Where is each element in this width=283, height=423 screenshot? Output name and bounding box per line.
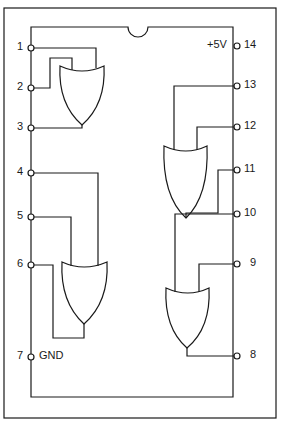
pin-5-label: 5 bbox=[17, 210, 23, 221]
pin-3-label: 3 bbox=[17, 121, 23, 132]
pin-8-label: 8 bbox=[250, 349, 256, 360]
chip-body bbox=[31, 27, 233, 397]
or-gate-1 bbox=[34, 48, 104, 128]
pin-1-label: 1 bbox=[17, 41, 23, 52]
pin-2-label: 2 bbox=[17, 81, 23, 92]
pin-9-label: 9 bbox=[250, 257, 256, 268]
pin-13-label: 13 bbox=[244, 79, 256, 90]
pin-4-label: 4 bbox=[17, 166, 23, 177]
pin-10-label: 10 bbox=[244, 207, 256, 218]
pin-14-label: 14 bbox=[244, 39, 256, 50]
pin-12-label: 12 bbox=[244, 120, 256, 131]
vcc-label: +5V bbox=[207, 39, 227, 50]
right-pins bbox=[234, 43, 240, 359]
or-gate-3 bbox=[166, 214, 234, 356]
or-gate-4 bbox=[164, 86, 234, 218]
pin-11-label: 11 bbox=[244, 163, 255, 174]
pin-6-label: 6 bbox=[17, 258, 23, 269]
gnd-label: GND bbox=[39, 350, 63, 361]
or-gate-2 bbox=[34, 173, 107, 338]
pin-7-label: 7 bbox=[17, 350, 23, 361]
